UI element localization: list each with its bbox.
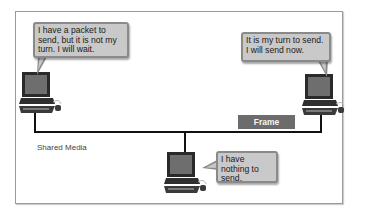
shared-media-label: Shared Media: [37, 143, 87, 152]
speech-bubble-host-right: It is my turn to send. I will send now.: [241, 32, 331, 62]
frame-label: Frame: [238, 115, 295, 129]
speech-bubble-host-bottom: I have nothing to send.: [216, 151, 278, 183]
speech-bubble-host-left: I have a packet to send, but it is not m…: [33, 22, 129, 58]
shared-media-bus: [35, 131, 322, 133]
desktop-computer-icon: [302, 74, 348, 118]
desktop-computer-icon: [19, 72, 65, 116]
drop-line-bottom: [184, 131, 186, 153]
speech-bubble-tail: [34, 55, 50, 75]
